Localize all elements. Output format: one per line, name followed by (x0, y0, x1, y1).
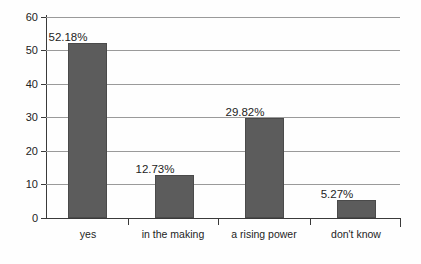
x-axis-category-label-in-the-making: in the making (133, 228, 213, 240)
y-axis-tick-label: 50 (12, 45, 38, 56)
y-axis-tick-label: 30 (12, 112, 38, 123)
x-axis-tick (310, 219, 311, 225)
bar-chart: 60 50 40 30 20 10 0 52.18% 12.73% 29.82%… (0, 0, 421, 264)
x-axis-line (46, 218, 401, 219)
bar-value-label-in-the-making: 12.73% (115, 163, 195, 175)
x-axis-category-label-dont-know: don't know (316, 228, 396, 240)
y-axis-tick-label: 20 (12, 146, 38, 157)
x-axis-tick (128, 219, 129, 225)
x-axis-tick (218, 219, 219, 225)
bar-in-the-making (155, 175, 194, 218)
x-axis-category-label-yes: yes (48, 228, 128, 240)
x-axis-end-tick (400, 219, 401, 227)
bar-dont-know (337, 200, 376, 218)
bar-value-label-yes: 52.18% (28, 31, 108, 43)
bar-value-label-a-rising-power: 29.82% (205, 106, 285, 118)
y-axis-tick-label: 60 (12, 12, 38, 23)
bar-yes (68, 43, 107, 218)
bar-value-label-dont-know: 5.27% (297, 188, 377, 200)
y-axis-tick-label: 40 (12, 79, 38, 90)
gridline-60 (46, 17, 400, 18)
y-axis-tick-label: 10 (12, 179, 38, 190)
y-axis-tick-label: 0 (12, 213, 38, 224)
bar-a-rising-power (245, 118, 284, 218)
x-axis-category-label-a-rising-power: a rising power (224, 228, 304, 240)
